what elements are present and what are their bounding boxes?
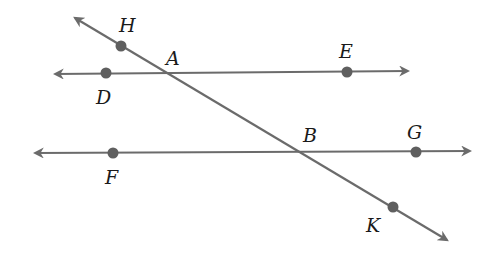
point-D [101, 68, 112, 79]
point-H [116, 41, 127, 52]
label-D: D [95, 86, 111, 108]
label-G: G [407, 121, 422, 143]
point-E [342, 67, 353, 78]
label-A: A [164, 47, 180, 69]
point-K [388, 202, 399, 213]
label-F: F [104, 166, 119, 188]
point-F [108, 148, 119, 159]
geometry-diagram: H A E D B G F K [0, 0, 496, 257]
label-B: B [302, 124, 317, 146]
label-H: H [118, 14, 136, 36]
label-E: E [338, 40, 353, 62]
line-FG [35, 151, 470, 153]
label-K: K [365, 214, 382, 236]
point-G [411, 147, 422, 158]
